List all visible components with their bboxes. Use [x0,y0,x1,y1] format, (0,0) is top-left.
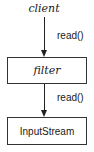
arrow-client-to-filter [44,17,45,50]
edge-label-read-1: read() [57,30,84,41]
filter-label: filter [33,64,60,77]
arrowhead-icon [41,110,47,117]
filter-node: filter [7,57,87,84]
client-node: client [0,2,88,15]
edge-label-read-2: read() [57,92,84,103]
inputstream-label: InputStream [20,126,74,137]
arrowhead-icon [41,50,47,57]
inputstream-node: InputStream [7,117,87,145]
arrow-filter-to-inputstream [44,84,45,111]
